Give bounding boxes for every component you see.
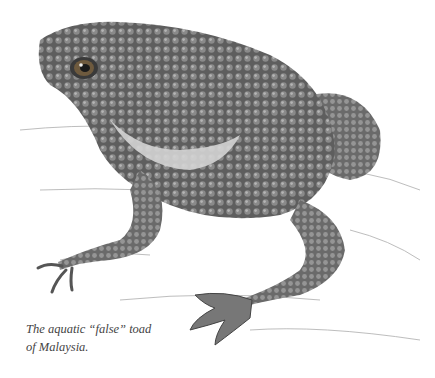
caption-line-2: of Malaysia.	[26, 338, 151, 356]
caption-line-1: The aquatic “false” toad	[26, 320, 151, 338]
image-caption: The aquatic “false” toad of Malaysia.	[26, 320, 151, 356]
